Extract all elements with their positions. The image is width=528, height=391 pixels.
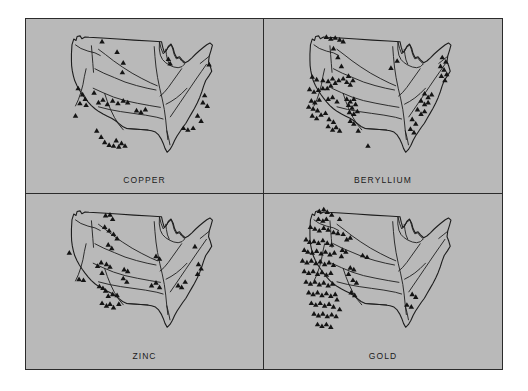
panel-label-copper: COPPER (26, 175, 263, 185)
deposit-marker (192, 244, 197, 249)
deposit-marker (157, 285, 162, 290)
deposit-marker (326, 117, 331, 122)
map-interior-line-3 (99, 224, 158, 260)
deposit-marker (312, 226, 317, 231)
map-interior-line-4 (95, 244, 156, 265)
deposit-marker (418, 98, 423, 103)
deposit-marker (67, 250, 72, 255)
deposit-marker (134, 108, 139, 113)
deposit-marker (329, 242, 334, 247)
deposit-marker (325, 283, 330, 288)
deposit-marker (330, 76, 335, 81)
deposit-marker (110, 216, 115, 221)
deposit-marker (348, 265, 353, 270)
deposit-marker (321, 207, 326, 212)
deposit-marker (102, 224, 107, 229)
deposit-marker (328, 83, 333, 88)
deposit-marker (202, 93, 207, 98)
map-interior-line-11 (76, 220, 101, 231)
deposit-marker (316, 313, 321, 318)
map-interior-line-7 (399, 244, 421, 271)
deposit-marker (311, 239, 316, 244)
deposit-marker (94, 128, 99, 133)
map-interior-line-11 (76, 45, 101, 56)
deposit-marker (303, 237, 308, 242)
deposit-marker (340, 231, 345, 236)
deposit-marker (309, 250, 314, 255)
map-interior-line-3 (99, 49, 158, 85)
deposit-marker (206, 62, 211, 67)
deposit-marker (429, 92, 434, 97)
map-interior-line-7 (399, 69, 421, 96)
deposit-marker (320, 78, 325, 83)
map-interior-line-1 (404, 224, 408, 239)
deposit-marker (340, 247, 345, 252)
deposit-marker (306, 290, 311, 295)
map-interior-line-1 (404, 49, 408, 64)
map-interior-line-3 (337, 49, 396, 85)
panel-label-gold: GOLD (264, 351, 502, 361)
deposit-marker (319, 292, 324, 297)
deposit-marker (324, 291, 329, 296)
deposit-marker (317, 259, 322, 264)
deposit-marker (413, 121, 418, 126)
map-copper (26, 21, 263, 159)
deposit-marker (300, 258, 305, 263)
deposit-marker (91, 90, 96, 95)
deposit-marker (198, 266, 203, 271)
deposit-marker (339, 64, 344, 69)
map-interior-line-13 (200, 231, 209, 238)
map-interior-line-2 (393, 47, 407, 140)
deposit-marker (328, 36, 333, 41)
deposit-marker (306, 270, 311, 275)
deposit-marker (309, 300, 314, 305)
deposit-marker (99, 270, 104, 275)
deposit-marker (316, 240, 321, 245)
map-interior-line-0 (398, 217, 423, 242)
map-interior-line-1 (166, 49, 170, 64)
deposit-marker (121, 267, 126, 272)
deposit-marker (73, 113, 78, 118)
map-beryllium (264, 21, 502, 159)
map-interior-line-13 (200, 56, 209, 63)
map-interior-line-5 (332, 263, 399, 282)
deposit-marker (340, 76, 345, 81)
usa-border-outline (71, 211, 212, 327)
deposit-marker (322, 303, 327, 308)
map-interior-line-10 (76, 244, 87, 281)
deposit-marker (321, 280, 326, 285)
deposit-marker (306, 104, 311, 109)
deposit-marker (323, 110, 328, 115)
deposit-marker (190, 125, 195, 130)
deposit-marker (326, 301, 331, 306)
deposit-marker (308, 281, 313, 286)
four-panel-map-figure: COPPER BERYLLIUM ZINC GOLD (25, 18, 503, 370)
map-interior-line-0 (159, 42, 184, 67)
deposit-marker (331, 230, 336, 235)
deposit-marker (330, 94, 335, 99)
deposit-marker (334, 297, 339, 302)
deposit-marker (325, 240, 330, 245)
usa-border-outline (310, 36, 451, 152)
deposit-marker (114, 49, 119, 54)
deposit-marker (100, 97, 105, 102)
deposit-marker (319, 323, 324, 328)
deposit-marker (113, 138, 118, 143)
deposit-marker (331, 119, 336, 124)
deposit-marker (336, 78, 341, 83)
map-interior-line-5 (332, 88, 399, 107)
deposit-marker (388, 65, 393, 70)
deposit-marker (309, 74, 314, 79)
deposit-marker (302, 269, 307, 274)
deposit-marker (307, 87, 312, 92)
deposit-marker (316, 216, 321, 221)
deposit-marker (153, 280, 158, 285)
deposit-marker (409, 292, 414, 297)
deposit-marker (409, 117, 414, 122)
deposit-marker (98, 134, 103, 139)
deposit-marker (121, 276, 126, 281)
deposit-marker (317, 282, 322, 287)
deposit-marker (309, 258, 314, 263)
deposit-marker (309, 98, 314, 103)
deposit-marker (408, 126, 413, 131)
